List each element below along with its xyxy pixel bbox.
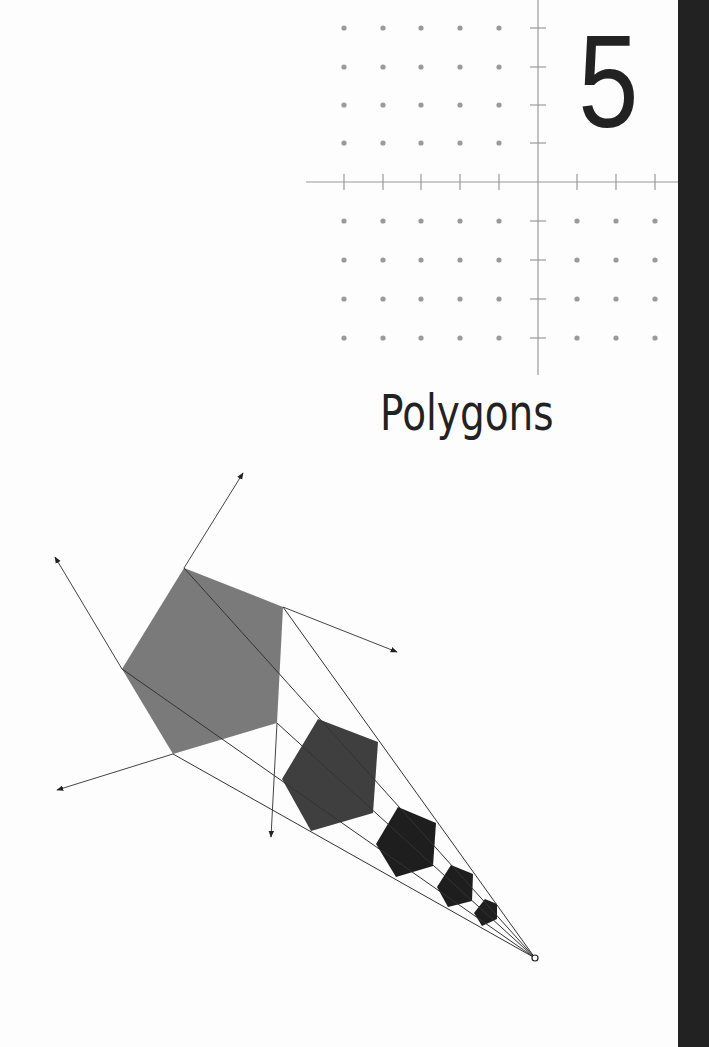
polygon-dilation-icon [0,0,709,1047]
chapter-number: 5 [578,22,635,142]
chapter-title: Polygons [380,380,513,450]
chapter-thumb-tab [678,0,709,1047]
book-page: 5 Polygons [0,0,709,1047]
